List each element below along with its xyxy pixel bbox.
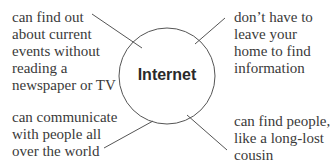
concept-web-diagram: Internet can find out about current even…	[0, 0, 336, 166]
node-text-line: reading a	[12, 60, 116, 77]
center-label: Internet	[119, 66, 215, 84]
node-text-line: information	[234, 60, 313, 77]
node-text-line: can find out	[12, 9, 116, 26]
node-text-line: with people all	[12, 126, 117, 143]
node-top-left: can find out about current events withou…	[12, 9, 116, 94]
node-bottom-left: can communicate with people all over the…	[12, 109, 117, 160]
node-text-line: newspaper or TV	[12, 77, 116, 94]
node-text-line: about current	[12, 26, 116, 43]
node-text-line: can find people,	[234, 113, 330, 130]
node-text-line: cousin	[234, 147, 330, 164]
connector-bottom-right	[187, 115, 227, 150]
node-bottom-right: can find people, like a long-lost cousin	[234, 113, 330, 164]
node-text-line: home to find	[234, 43, 313, 60]
node-top-right: don’t have to leave your home to find in…	[234, 9, 313, 77]
node-text-line: over the world	[12, 143, 117, 160]
node-text-line: like a long-lost	[234, 130, 330, 147]
node-text-line: can communicate	[12, 109, 117, 126]
node-text-line: don’t have to	[234, 9, 313, 26]
node-text-line: leave your	[234, 26, 313, 43]
node-text-line: events without	[12, 43, 116, 60]
connector-top-right	[195, 18, 225, 44]
